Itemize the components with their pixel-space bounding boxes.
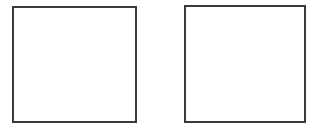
left-square [12,6,137,123]
right-square [184,5,306,123]
